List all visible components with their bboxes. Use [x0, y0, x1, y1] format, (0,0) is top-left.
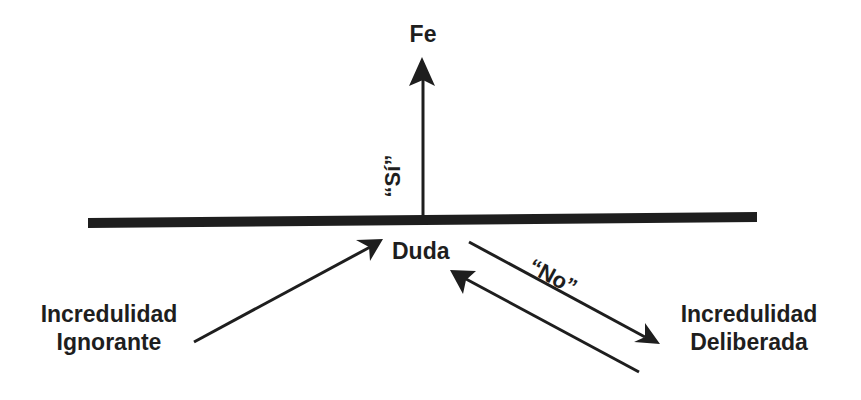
node-left-line1: Incredulidad — [41, 300, 178, 328]
node-right-line2: Deliberada — [690, 328, 808, 356]
node-duda: Duda — [392, 237, 450, 265]
edge-label-yes: “Sí” — [379, 155, 407, 198]
node-right-line1: Incredulidad — [681, 300, 818, 328]
node-left-line2: Ignorante — [57, 328, 162, 356]
node-incredulidad-ignorante: Incredulidad Ignorante — [24, 300, 194, 356]
arrow-ignorant-shaft — [194, 246, 372, 342]
node-incredulidad-deliberada: Incredulidad Deliberada — [664, 300, 834, 356]
node-fe: Fe — [398, 20, 448, 48]
arrow-ignorant-head-icon — [356, 239, 383, 261]
